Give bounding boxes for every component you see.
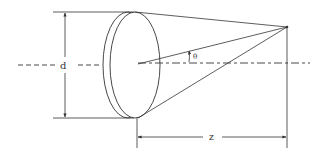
- distance-label: z: [209, 132, 214, 142]
- distance-extension-lines: [137, 27, 287, 148]
- angle-arc: [189, 51, 190, 62]
- aperture-disk: [103, 12, 160, 118]
- aperture-cone-diagram: d θ z: [0, 0, 324, 154]
- diameter-label: d: [60, 60, 67, 71]
- angle-label: θ: [193, 53, 197, 61]
